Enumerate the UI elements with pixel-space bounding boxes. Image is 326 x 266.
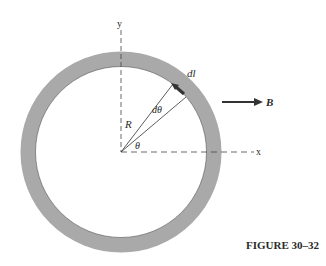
dl-label: dl [187,67,196,79]
b-field-arrow-icon [222,98,263,106]
theta-label: θ [135,140,140,151]
d-theta-label: dθ [152,104,162,115]
radius-label: R [124,118,132,130]
figure-caption: FIGURE 30–32 [246,239,320,251]
ring-diagram: y x R dθ θ dl B FIGURE 30–32 [0,0,326,266]
b-field-label: B [265,96,273,108]
y-axis-label: y [117,18,122,29]
x-axis-label: x [256,146,261,157]
